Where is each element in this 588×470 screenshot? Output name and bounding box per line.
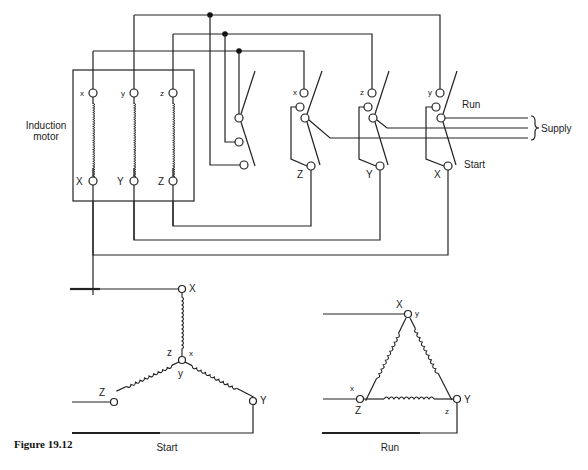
delta-terminal-Z [357, 396, 364, 403]
supply-brace [531, 116, 539, 140]
terminal-X [89, 177, 97, 185]
terminal-z [169, 89, 177, 97]
star-coil-y [191, 366, 236, 390]
bottom-return-wires [93, 170, 448, 255]
delta-label-x: x [350, 384, 354, 393]
switch1-top-label: x [293, 88, 297, 97]
delta-title: Run [381, 442, 399, 453]
delta-label-y: y [415, 309, 419, 318]
switch3-top-label: y [428, 88, 432, 97]
changeover-switch-3: y X [426, 71, 457, 180]
star-connection-diagram: X z x y Z Y Start [70, 283, 267, 453]
supply-lines: Supply Run Start [309, 99, 572, 170]
delta-label-X: X [396, 299, 403, 310]
switch2-top-label: z [360, 88, 364, 97]
star-label-z: z [167, 347, 172, 358]
delta-terminal-Y [454, 396, 461, 403]
run-label: Run [462, 99, 480, 110]
terminal-Y [130, 177, 138, 185]
switch1-bottom-label: Z [297, 169, 303, 180]
label-Z: Z [158, 176, 164, 187]
star-centre-node [179, 357, 186, 364]
star-terminal-Y [250, 398, 257, 405]
supply-label: Supply [541, 123, 572, 134]
motor-block: Induction motor x X y Y z Z [26, 15, 194, 295]
label-y: y [121, 89, 125, 98]
motor-label-line2: motor [33, 131, 59, 142]
star-delta-diagram: Induction motor x X y Y z Z [0, 0, 588, 470]
start-label: Start [464, 159, 485, 170]
delta-coil-left [377, 333, 401, 379]
figure-caption: Figure 19.12 [14, 438, 73, 450]
star-coil-x [182, 293, 184, 358]
delta-coil-right [414, 329, 438, 374]
changeover-switch-1: x Z [291, 71, 322, 180]
delta-label-z: z [445, 407, 449, 416]
terminal-Z [169, 177, 177, 185]
delta-terminal-X [405, 311, 412, 318]
motor-label-line1: Induction [26, 120, 67, 131]
terminal-x [89, 89, 97, 97]
delta-connection-diagram: X y x Z Y z Run [322, 299, 471, 453]
delta-label-Y: Y [464, 394, 471, 405]
delta-coil-bottom [384, 397, 434, 399]
star-coil-z [126, 365, 172, 388]
switch3-bottom-label: X [434, 169, 441, 180]
star-label-x: x [189, 349, 193, 358]
star-label-Y: Y [260, 395, 267, 406]
label-X: X [76, 176, 83, 187]
star-label-y: y [178, 368, 183, 379]
top-bus-wires [93, 12, 440, 165]
star-label-Z: Z [99, 387, 105, 398]
star-point-switch [235, 71, 255, 169]
label-x: x [80, 89, 84, 98]
star-label-X: X [189, 283, 196, 294]
switch2-bottom-label: Y [366, 169, 373, 180]
label-z: z [160, 89, 164, 98]
star-title: Start [156, 442, 177, 453]
star-terminal-X [179, 286, 186, 293]
label-Y: Y [117, 176, 124, 187]
terminal-y [130, 89, 138, 97]
star-terminal-Z [111, 399, 118, 406]
delta-label-Z: Z [355, 405, 361, 416]
